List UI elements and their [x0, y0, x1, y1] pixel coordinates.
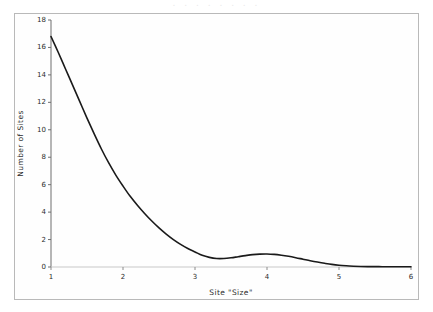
axis-lines	[51, 20, 411, 267]
x-tick-label: 1	[49, 273, 53, 281]
y-tick-label: 8	[28, 153, 46, 161]
y-axis-title: Number of Sites	[16, 83, 25, 203]
x-tick-label: 6	[409, 273, 413, 281]
x-tick-label: 5	[337, 273, 341, 281]
y-tick-label: 12	[28, 98, 46, 106]
y-tick-label: 10	[28, 126, 46, 134]
x-axis-title: Site "Size"	[151, 288, 311, 297]
y-tick-label: 2	[28, 236, 46, 244]
y-tick-label: 14	[28, 71, 46, 79]
x-tick-label: 2	[121, 273, 125, 281]
tick-marks	[48, 20, 411, 270]
line-chart	[0, 0, 433, 312]
x-tick-label: 4	[265, 273, 269, 281]
y-tick-label: 18	[28, 16, 46, 24]
x-tick-label: 3	[193, 273, 197, 281]
data-series-line	[51, 36, 411, 266]
y-tick-label: 0	[28, 263, 46, 271]
y-tick-label: 4	[28, 208, 46, 216]
y-tick-label: 6	[28, 181, 46, 189]
y-tick-label: 16	[28, 43, 46, 51]
